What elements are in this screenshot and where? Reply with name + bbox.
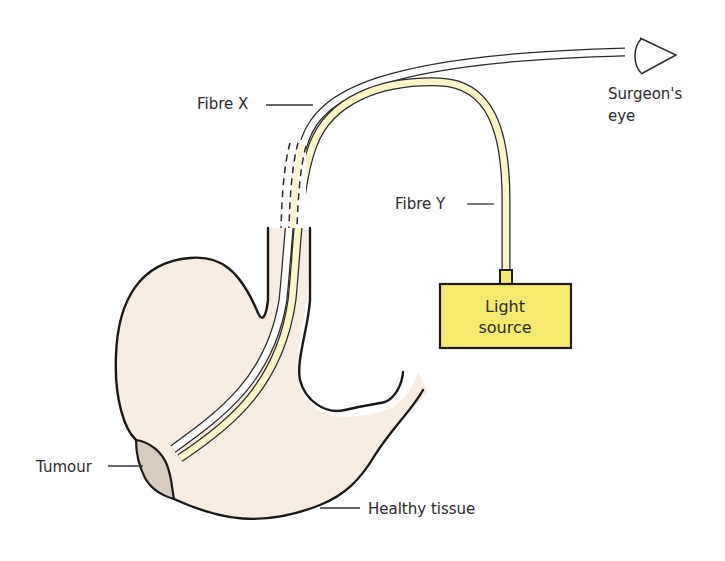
fibre-x-label: Fibre X	[197, 95, 248, 113]
stomach-outline-right	[299, 228, 403, 411]
light-source-connector	[500, 270, 512, 284]
light-source-label-line2: source	[478, 318, 531, 337]
healthy-tissue-label: Healthy tissue	[368, 500, 475, 518]
fibre-y-label: Fibre Y	[395, 195, 446, 213]
surgeons-eye-label-line2: eye	[608, 107, 635, 125]
eye-icon	[635, 38, 676, 74]
surgeons-eye-label-line1: Surgeon's	[608, 85, 682, 103]
light-source-label-line1: Light	[485, 297, 525, 316]
light-source-box	[440, 284, 571, 348]
tumour-label: Tumour	[35, 458, 93, 476]
endoscope-diagram: Light source Fibre X Fibre Y Surgeon's e…	[0, 0, 725, 561]
